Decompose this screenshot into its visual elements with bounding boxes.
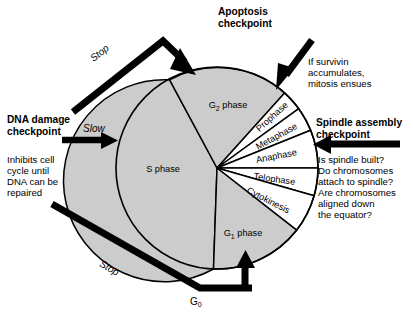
wedge-label-s: S phase	[146, 164, 180, 174]
g0-label: G0	[190, 296, 202, 309]
apoptosis-checkpoint-body: If survivin accumulates, mitosis ensues	[308, 57, 413, 90]
slow-label: Slow	[83, 123, 105, 134]
apoptosis-arrow	[276, 40, 312, 90]
spindle-assembly-checkpoint-body: Is spindle built? Do chromosomes attach …	[318, 155, 413, 221]
wedge-label-g2: G2 phase	[209, 100, 248, 112]
wedge-label-g1: G1 phase	[224, 228, 263, 240]
cell-cycle-diagram: G2 phase S phase G1 phase Prophase Metap…	[0, 0, 413, 316]
apoptosis-checkpoint-title: Apoptosis checkpoint	[218, 6, 358, 29]
dna-damage-checkpoint-body: Inhibits cell cycle until DNA can be rep…	[7, 155, 117, 199]
spindle-assembly-checkpoint-title: Spindle assembly checkpoint	[316, 117, 413, 140]
